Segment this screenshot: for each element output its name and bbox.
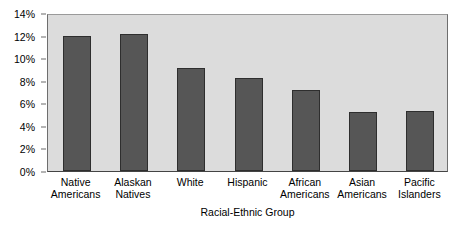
bar	[406, 111, 434, 171]
y-tick-label: 0%	[0, 167, 35, 178]
bar	[349, 112, 377, 171]
y-tick-mark	[41, 149, 46, 150]
y-tick-mark	[41, 59, 46, 60]
y-tick-label: 6%	[0, 99, 35, 110]
y-tick-label: 10%	[0, 54, 35, 65]
x-category-label-line2: Americans	[47, 188, 104, 200]
x-category-label-line2: Islanders	[391, 188, 448, 200]
bar-chart: 0%2%4%6%8%10%12%14% NativeAmericansAlask…	[0, 0, 470, 228]
x-category-label-line1: Pacific	[404, 176, 435, 188]
x-category-label: AlaskanNatives	[104, 176, 161, 200]
y-tick-label: 8%	[0, 76, 35, 87]
y-tick-label: 14%	[0, 9, 35, 20]
bar	[120, 34, 148, 171]
y-tick-mark	[41, 104, 46, 105]
y-tick-mark	[41, 126, 46, 127]
bar	[177, 68, 205, 171]
x-category-label-line1: Native	[61, 176, 91, 188]
y-tick-mark	[41, 36, 46, 37]
x-category-label-line1: Asian	[349, 176, 375, 188]
y-tick-label: 2%	[0, 144, 35, 155]
x-category-label-line2: Natives	[104, 188, 161, 200]
x-category-label: PacificIslanders	[391, 176, 448, 200]
x-category-label-line1: Hispanic	[227, 176, 267, 188]
x-category-label-line2: Americans	[333, 188, 390, 200]
x-category-label-line1: White	[177, 176, 204, 188]
x-category-label: White	[162, 176, 219, 188]
bar	[292, 90, 320, 171]
y-tick-label: 4%	[0, 122, 35, 133]
y-tick-mark	[41, 81, 46, 82]
bars-layer	[48, 15, 447, 171]
y-axis: 0%2%4%6%8%10%12%14%	[0, 0, 42, 228]
plot-area	[47, 14, 448, 172]
x-category-label: AsianAmericans	[333, 176, 390, 200]
x-category-label: Hispanic	[219, 176, 276, 188]
y-tick-mark	[41, 172, 46, 173]
y-tick-label: 12%	[0, 31, 35, 42]
y-tick-mark	[41, 14, 46, 15]
x-axis-category-labels: NativeAmericansAlaskanNativesWhiteHispan…	[47, 176, 448, 204]
x-axis-title: Racial-Ethnic Group	[47, 206, 448, 218]
x-category-label-line2: Americans	[276, 188, 333, 200]
x-category-label: AfricanAmericans	[276, 176, 333, 200]
x-category-label: NativeAmericans	[47, 176, 104, 200]
x-category-label-line1: African	[288, 176, 321, 188]
bar	[63, 36, 91, 171]
bar	[235, 78, 263, 171]
x-category-label-line1: Alaskan	[114, 176, 151, 188]
